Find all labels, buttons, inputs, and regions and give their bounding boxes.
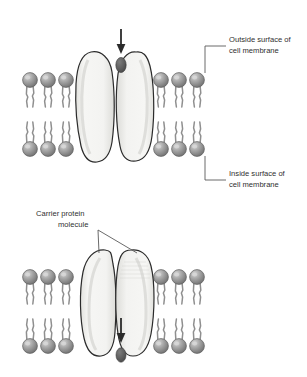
transported-molecule-bottom	[116, 348, 126, 362]
arrow-top	[117, 29, 126, 54]
protein-lobe-left-bottom	[80, 250, 116, 356]
bilayer-left-bottom	[23, 270, 74, 354]
lipid-upper-row-right-b	[154, 270, 205, 304]
diagram-canvas: Outside surface of cell membrane Inside …	[0, 0, 307, 377]
bilayer-right-bottom	[154, 270, 205, 354]
lipid-lower-row-left	[23, 122, 74, 156]
lipid-lower-row-right-b	[154, 319, 205, 353]
panel-bottom: Carrier protein molecule	[23, 209, 205, 362]
carrier-protein-label-line1: Carrier protein	[36, 209, 85, 218]
outside-surface-label-line1: Outside surface of	[229, 35, 292, 44]
lipid-upper-row-left-b	[23, 270, 74, 304]
carrier-protein-diagram: Outside surface of cell membrane Inside …	[0, 0, 307, 377]
carrier-protein-top	[76, 52, 154, 162]
bilayer-left-top	[23, 73, 74, 157]
carrier-protein-bottom	[80, 250, 154, 356]
lipid-upper-row-left	[23, 73, 74, 107]
bilayer-right-top	[154, 73, 205, 157]
transported-molecule-top	[116, 57, 126, 72]
lipid-lower-row-left-b	[23, 319, 74, 353]
leader-carrier-protein-left	[98, 230, 99, 253]
leader-inside-surface	[205, 156, 226, 180]
lipid-upper-row-right	[154, 73, 205, 107]
lipid-lower-row-right	[154, 122, 205, 156]
carrier-protein-label-line2: molecule	[58, 220, 88, 229]
outside-surface-label-line2: cell membrane	[229, 46, 279, 55]
inside-surface-label-line2: cell membrane	[229, 180, 279, 189]
panel-top: Outside surface of cell membrane Inside …	[23, 29, 292, 189]
inside-surface-label-line1: Inside surface of	[229, 169, 286, 178]
leader-outside-surface	[205, 46, 226, 73]
